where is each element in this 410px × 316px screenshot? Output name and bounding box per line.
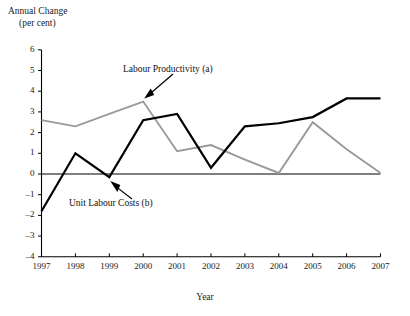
y-tick-label: 1 <box>17 147 35 157</box>
y-tick-label: 4 <box>17 85 35 95</box>
x-tick-label: 2000 <box>126 261 160 271</box>
series-line-labour-productivity <box>42 102 381 173</box>
x-tick-label: 1998 <box>58 261 92 271</box>
x-tick-label: 2004 <box>262 261 296 271</box>
series-group <box>42 98 381 211</box>
y-tick-label: –3 <box>17 230 35 240</box>
x-tick-label: 2006 <box>330 261 364 271</box>
y-tick-label: 3 <box>17 106 35 116</box>
y-tick-label: 2 <box>17 127 35 137</box>
x-tick-label: 2003 <box>228 261 262 271</box>
x-tick-label: 1997 <box>25 261 59 271</box>
annotation-arrow-line-productivity <box>149 74 173 95</box>
y-tick-label: 0 <box>17 168 35 178</box>
annotation-arrows <box>110 74 173 199</box>
chart-container: Annual Change(per cent) Year Labour Prod… <box>0 0 410 316</box>
y-tick-label: 5 <box>17 65 35 75</box>
series-line-unit-labour-costs <box>42 98 381 211</box>
x-tick-label: 2005 <box>296 261 330 271</box>
annotation-arrowhead-ulc <box>110 181 120 192</box>
axes-group <box>42 50 381 257</box>
y-tick-label: –1 <box>17 189 35 199</box>
annotation-arrowhead-productivity <box>144 89 154 99</box>
y-tick-label: 6 <box>17 44 35 54</box>
x-tick-label: 2002 <box>194 261 228 271</box>
y-tick-label: –2 <box>17 209 35 219</box>
x-tick-label: 2007 <box>364 261 398 271</box>
ticks-group <box>38 50 381 257</box>
x-tick-label: 2001 <box>160 261 194 271</box>
x-tick-label: 1999 <box>92 261 126 271</box>
y-tick-label: –4 <box>17 251 35 261</box>
